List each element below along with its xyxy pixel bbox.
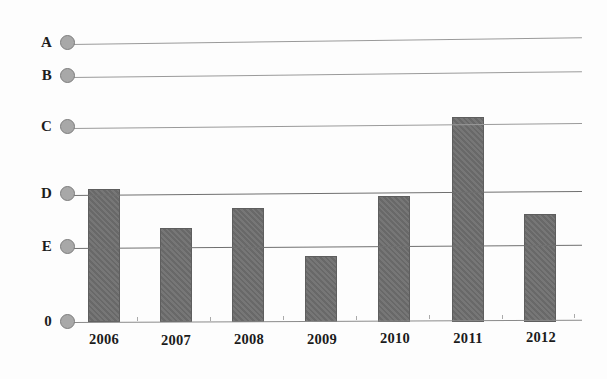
axis-label-e: E [30,238,52,255]
axis-node-d [60,186,75,201]
axis-node-a [60,35,75,50]
bar-chart: A B C D E 0 2006 2007 2008 2009 2010 201… [0,0,607,379]
gridline-e [70,245,582,249]
xtick-3 [283,316,284,320]
xaxis-label-2008: 2008 [219,331,279,348]
axis-label-d: D [30,185,52,202]
axis-label-b: B [30,67,52,84]
axis-node-zero [60,314,75,329]
bar-2008 [232,208,264,322]
xaxis-label-2007: 2007 [146,332,206,349]
axis-node-e [60,239,75,254]
xtick-1 [137,317,138,321]
axis-label-c: C [30,118,52,135]
axis-baseline [70,320,582,323]
gridline-c [70,123,582,129]
bar-2009 [305,256,337,322]
xaxis-label-2010: 2010 [365,330,425,347]
gridline-d [70,191,582,196]
xtick-7 [574,314,575,318]
axis-node-b [60,68,75,83]
bar-2010 [378,196,410,322]
gridline-b [70,71,582,78]
axis-node-c [60,119,75,134]
xtick-5 [429,315,430,319]
xaxis-label-2006: 2006 [74,331,134,348]
axis-label-a: A [30,34,52,51]
xaxis-label-2012: 2012 [511,329,571,346]
xaxis-label-2009: 2009 [292,331,352,348]
bar-2011 [452,117,484,322]
bar-2012 [524,214,556,322]
axis-label-zero: 0 [30,313,52,330]
xtick-4 [356,316,357,320]
bar-2006 [88,189,120,322]
plot-area: A B C D E 0 2006 2007 2008 2009 2010 201… [0,0,607,379]
xaxis-label-2011: 2011 [438,330,498,347]
xtick-6 [502,315,503,319]
gridline-a [70,37,582,45]
bar-2007 [160,228,192,322]
